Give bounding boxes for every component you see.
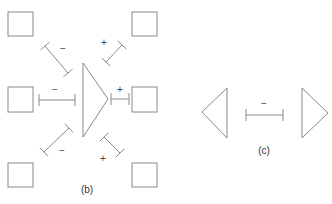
- panel-b-label: (b): [81, 184, 93, 195]
- minus-sign: −: [261, 98, 267, 109]
- box-mid-left: [8, 87, 33, 112]
- connector-group: [39, 41, 129, 157]
- plus-sign-top-right: +: [101, 37, 107, 48]
- box-top-left: [8, 12, 33, 36]
- panel-c-label: (c): [258, 145, 270, 156]
- minus-sign-mid-left: −: [52, 84, 58, 95]
- diagram-canvas: −−−+++ (b) − (c): [0, 0, 332, 204]
- panel-c: − (c): [202, 88, 328, 156]
- box-bottom-left: [8, 163, 33, 187]
- minus-sign-top-left: −: [60, 43, 66, 54]
- minus-sign-bottom-left: −: [59, 145, 65, 156]
- connector-mid-left: [39, 94, 75, 106]
- connector-bottom-left: [40, 124, 73, 157]
- box-bottom-right: [132, 163, 157, 187]
- diagram-svg: −−−+++ (b) − (c): [0, 0, 332, 204]
- triangle-right-icon: [83, 63, 108, 137]
- connector-top-left: [40, 42, 72, 77]
- panel-b: −−−+++ (b): [8, 12, 157, 195]
- box-mid-right: [132, 87, 157, 112]
- connector-inhibitory: [246, 109, 283, 121]
- connector-c: [246, 109, 283, 121]
- plus-sign-bottom-right: +: [100, 153, 106, 164]
- triangle-right-icon: [302, 88, 328, 138]
- box-top-right: [132, 12, 157, 36]
- plus-sign-mid-right: +: [117, 84, 123, 95]
- triangle-left-icon: [202, 88, 227, 138]
